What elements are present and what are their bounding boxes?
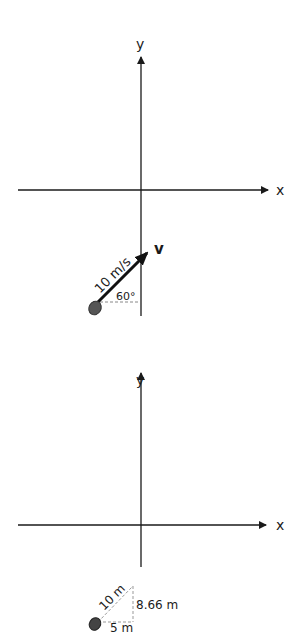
bottom-x-label: x — [276, 517, 284, 533]
vertical-label: 8.66 m — [136, 598, 178, 612]
top-y-label: y — [136, 36, 144, 52]
velocity-symbol: v — [154, 240, 164, 258]
top-x-label: x — [276, 182, 284, 198]
horizontal-label: 5 m — [110, 621, 133, 635]
angle-label: 60° — [116, 290, 136, 303]
top-panel: x y v 10 m/s 60° — [18, 36, 284, 317]
hypotenuse-label: 10 m — [96, 581, 128, 613]
bottom-panel: x y 10 m 8.66 m 5 m — [18, 372, 284, 635]
kinematics-diagram: x y v 10 m/s 60° x y 10 m 8.66 m 5 m — [0, 0, 303, 636]
ball-icon — [87, 616, 103, 633]
bottom-y-label: y — [136, 372, 144, 388]
